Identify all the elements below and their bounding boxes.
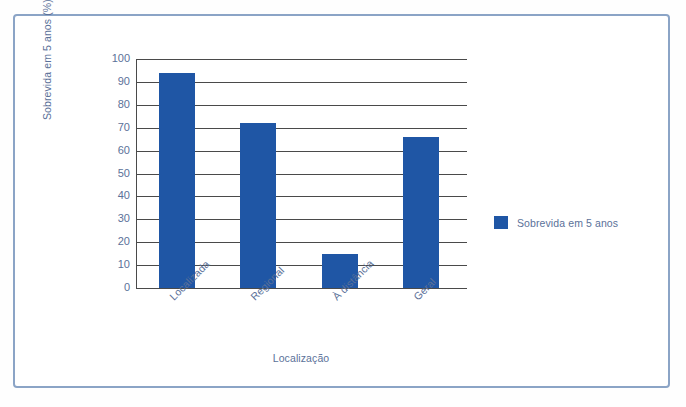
y-tick-label: 40: [100, 190, 130, 201]
y-tick-label: 80: [100, 99, 130, 110]
y-tick-label: 50: [100, 168, 130, 179]
plot-area: [136, 59, 462, 288]
y-axis-line: [136, 59, 137, 289]
gridline-100: [136, 59, 467, 60]
y-tick-label: 100: [100, 53, 130, 64]
bar-3: [403, 137, 439, 288]
y-tick-label: 30: [100, 213, 130, 224]
y-tick-label: 20: [100, 236, 130, 247]
legend-swatch-sobrevida: [494, 216, 508, 229]
x-axis-title: Localização: [236, 352, 366, 364]
bar-1: [240, 123, 276, 288]
x-axis-tick-labels: LocalizadaRegionalÀ distânciaGeral: [136, 290, 467, 350]
bar-0: [159, 73, 195, 288]
legend-label-sobrevida: Sobrevida em 5 anos: [517, 217, 618, 229]
y-tick-label: 70: [100, 122, 130, 133]
y-tick-label: 90: [100, 76, 130, 87]
y-tick-label: 60: [100, 145, 130, 156]
y-tick-label: 10: [100, 259, 130, 270]
y-axis-title: Sobrevida em 5 anos (%): [41, 0, 53, 120]
y-axis-tick-labels: 1009080706050403020100: [98, 59, 130, 288]
y-tick-label: 0: [100, 282, 130, 293]
chart-legend: Sobrevida em 5 anos: [494, 216, 618, 229]
chart-figure: Sobrevida em 5 anos (%) 1009080706050403…: [0, 0, 686, 407]
